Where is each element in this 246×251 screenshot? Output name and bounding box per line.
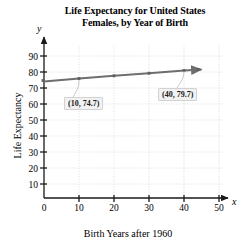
callout-leader-line — [73, 80, 79, 97]
callout-leader-line — [177, 71, 184, 88]
data-series-line — [44, 70, 202, 82]
chart-figure: Life Expectancy for United States Female… — [0, 0, 246, 251]
plot-area — [0, 0, 246, 251]
data-point-annotation: (40, 79.7) — [158, 88, 197, 101]
data-point-annotation: (10, 74.7) — [64, 97, 103, 110]
